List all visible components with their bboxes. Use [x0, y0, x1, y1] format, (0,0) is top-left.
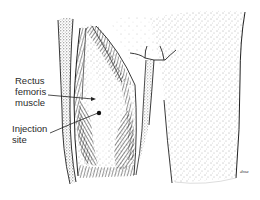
right-thigh — [150, 11, 246, 183]
label-muscle-line3: muscle — [15, 97, 45, 108]
inner-thigh-shading — [140, 60, 154, 160]
label-muscle-line1: Rectus — [15, 75, 45, 86]
label-injection-line1: Injection — [12, 123, 47, 134]
lateral-thigh-edge — [58, 18, 76, 184]
injection-site-dot — [97, 111, 101, 115]
label-muscle-line2: femoris — [15, 86, 46, 97]
label-injection-line2: site — [12, 134, 27, 145]
artist-signature: dma — [240, 169, 249, 174]
illustration: Rectus femoris muscle Injection site dma — [0, 0, 260, 200]
